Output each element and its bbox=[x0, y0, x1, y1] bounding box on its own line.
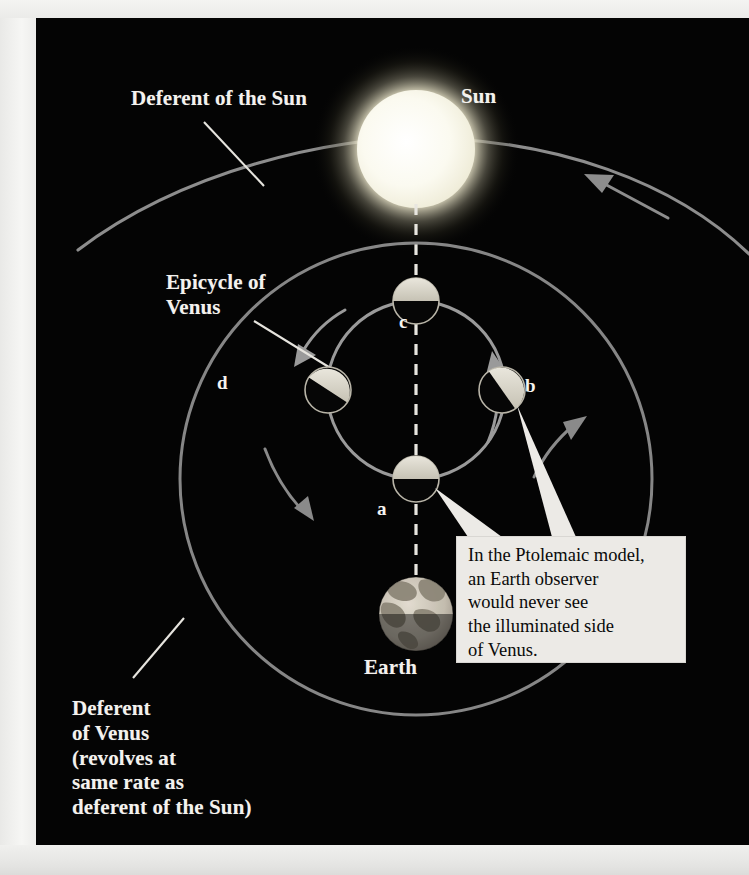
direction-arrow-epicycle-left bbox=[294, 310, 345, 367]
label-epicycle-of-venus: Epicycle of Venus bbox=[166, 270, 266, 320]
venus-label-a: a bbox=[377, 498, 387, 520]
page-margin-top bbox=[0, 0, 749, 18]
callout-pointer-to-a bbox=[435, 488, 502, 537]
leader-line-deferent-of-venus bbox=[133, 618, 184, 678]
direction-arrow-deferent-of-venus-left bbox=[265, 449, 314, 521]
ptolemaic-venus-diagram: Deferent of the Sun Sun Epicycle of Venu… bbox=[36, 18, 749, 845]
label-sun: Sun bbox=[461, 84, 496, 109]
callout-text: In the Ptolemaic model, an Earth observe… bbox=[468, 544, 680, 662]
page-margin-left bbox=[0, 0, 36, 875]
figure-page: Deferent of the Sun Sun Epicycle of Venu… bbox=[0, 0, 749, 875]
callout-box: In the Ptolemaic model, an Earth observe… bbox=[457, 537, 685, 662]
earth bbox=[379, 577, 453, 656]
venus-label-c: c bbox=[399, 311, 407, 333]
label-earth: Earth bbox=[364, 655, 417, 680]
direction-arrow-deferent-of-sun bbox=[584, 174, 668, 218]
label-deferent-of-venus: Deferent of Venus (revolves at same rate… bbox=[72, 696, 252, 820]
venus-position-d bbox=[305, 367, 351, 413]
venus-label-b: b bbox=[525, 375, 536, 397]
venus-position-b bbox=[479, 367, 525, 413]
sun bbox=[357, 90, 475, 208]
venus-position-a bbox=[393, 456, 439, 502]
page-margin-bottom bbox=[0, 845, 749, 875]
venus-label-d: d bbox=[217, 372, 228, 394]
label-deferent-of-sun: Deferent of the Sun bbox=[131, 86, 307, 111]
